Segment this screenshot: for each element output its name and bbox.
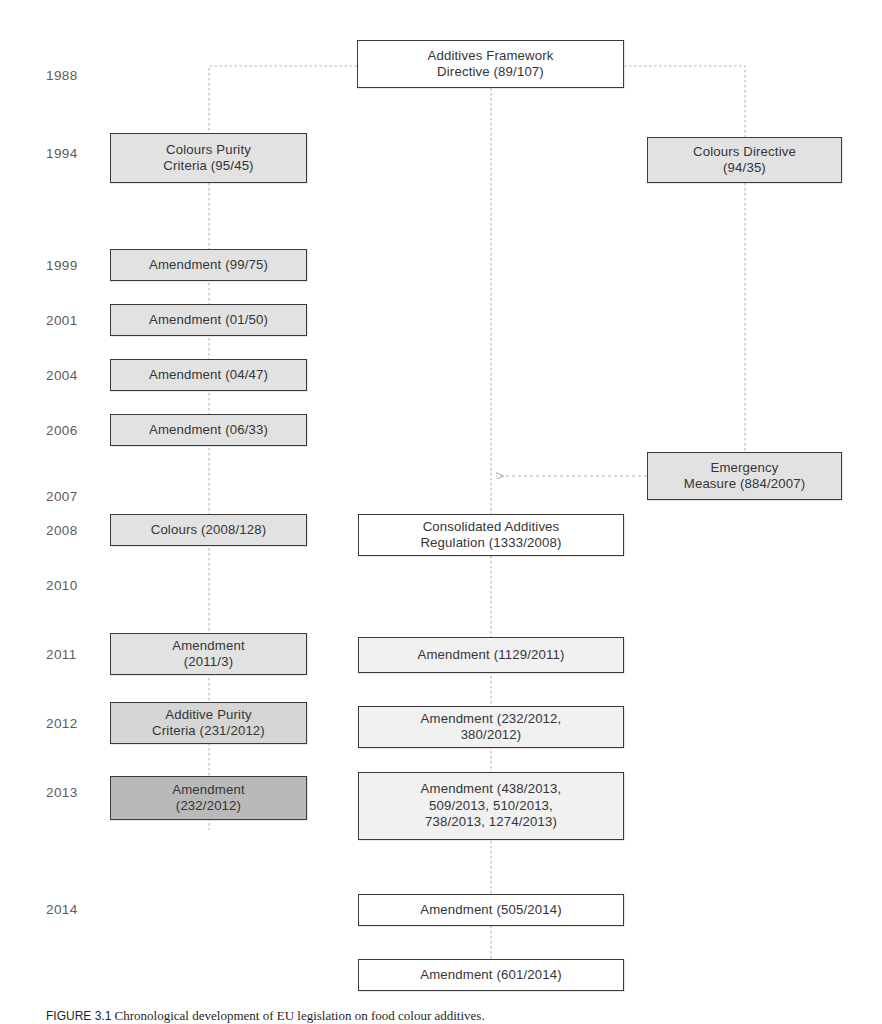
node-line-2: (94/35) [652,160,837,177]
node-line-2: (2011/3) [115,654,302,671]
year-label-2010: 2010 [46,578,78,593]
node-line-1: Amendment (06/33) [115,422,302,439]
year-label-2001: 2001 [46,313,78,328]
node-line-1: Amendment (438/2013, [363,781,619,798]
connector-framework-to-left [209,66,357,133]
node-line-2: 509/2013, 510/2013, [363,798,619,815]
node-line-2: (232/2012) [115,798,302,815]
node-colours-directive[interactable]: Colours Directive (94/35) [647,137,842,183]
year-label-1994: 1994 [46,146,78,161]
figure-canvas: 1988 1994 1999 2001 2004 2006 2007 2008 … [0,0,882,1024]
node-line-1: Additives Framework [362,48,619,65]
node-amendment-601-2014[interactable]: Amendment (601/2014) [358,959,624,991]
node-line-2: Regulation (1333/2008) [363,535,619,552]
node-line-3: 738/2013, 1274/2013) [363,814,619,831]
node-line-1: Amendment (99/75) [115,257,302,274]
connector-framework-to-right [624,66,745,137]
node-line-2: Measure (884/2007) [652,476,837,493]
node-line-1: Amendment (1129/2011) [363,647,619,664]
node-amendment-1129-2011[interactable]: Amendment (1129/2011) [358,637,624,673]
node-amendment-06-33[interactable]: Amendment (06/33) [110,414,307,446]
figure-caption-text: Chronological development of EU legislat… [111,1008,484,1023]
node-line-2: 380/2012) [363,727,619,744]
node-line-1: Amendment (01/50) [115,312,302,329]
node-line-1: Amendment (505/2014) [363,902,619,919]
node-line-1: Emergency [652,460,837,477]
year-label-1988: 1988 [46,68,78,83]
node-line-1: Amendment [115,638,302,655]
year-label-2012: 2012 [46,716,78,731]
node-additive-purity-criteria[interactable]: Additive Purity Criteria (231/2012) [110,702,307,744]
node-amendment-04-47[interactable]: Amendment (04/47) [110,359,307,391]
node-colours-purity-criteria[interactable]: Colours Purity Criteria (95/45) [110,133,307,183]
node-amendment-2011-3[interactable]: Amendment (2011/3) [110,633,307,675]
node-colours-2008-128[interactable]: Colours (2008/128) [110,514,307,546]
year-label-2014: 2014 [46,902,78,917]
year-label-2011: 2011 [46,647,77,662]
node-line-1: Consolidated Additives [363,519,619,536]
node-line-1: Additive Purity [115,707,302,724]
node-amendment-01-50[interactable]: Amendment (01/50) [110,304,307,336]
year-label-2013: 2013 [46,785,78,800]
node-line-1: Amendment (04/47) [115,367,302,384]
node-amendment-505-2014[interactable]: Amendment (505/2014) [358,894,624,926]
node-line-1: Amendment (232/2012, [363,711,619,728]
node-emergency-measure[interactable]: Emergency Measure (884/2007) [647,452,842,500]
node-amendment-99-75[interactable]: Amendment (99/75) [110,249,307,281]
node-amendment-232-2012[interactable]: Amendment (232/2012) [110,776,307,820]
node-line-2: Criteria (95/45) [115,158,302,175]
year-label-2006: 2006 [46,423,78,438]
year-label-2008: 2008 [46,523,78,538]
figure-caption-label: FIGURE 3.1 [46,1009,111,1023]
node-line-1: Colours Purity [115,142,302,159]
node-line-1: Amendment (601/2014) [363,967,619,984]
node-additives-framework-directive[interactable]: Additives Framework Directive (89/107) [357,40,624,88]
node-line-1: Amendment [115,782,302,799]
node-consolidated-additives-regulation[interactable]: Consolidated Additives Regulation (1333/… [358,514,624,556]
year-label-2007: 2007 [46,489,78,504]
year-label-1999: 1999 [46,258,78,273]
node-line-2: Criteria (231/2012) [115,723,302,740]
node-amendment-2013-group[interactable]: Amendment (438/2013, 509/2013, 510/2013,… [358,772,624,840]
node-amendment-232-380-2012[interactable]: Amendment (232/2012, 380/2012) [358,706,624,748]
node-line-2: Directive (89/107) [362,64,619,81]
figure-caption: FIGURE 3.1 Chronological development of … [46,1008,846,1024]
node-line-1: Colours (2008/128) [115,522,302,539]
year-label-2004: 2004 [46,368,78,383]
node-line-1: Colours Directive [652,144,837,161]
